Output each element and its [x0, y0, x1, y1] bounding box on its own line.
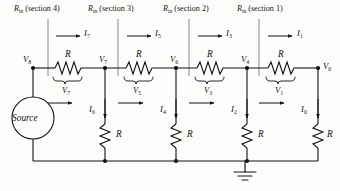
- shunt-resistor-label-1: R: [327, 130, 333, 139]
- branch-voltage-v3: V3: [204, 86, 212, 96]
- circuit-figure: Rin (section 4) Rin (section 3) Rin (sec…: [0, 0, 340, 191]
- series-resistor-label-4: R: [65, 50, 71, 59]
- header-section-1: Rin (section 1): [237, 5, 283, 14]
- current-label-i4: I4: [160, 105, 166, 115]
- node-voltage-v0: V0: [323, 62, 331, 72]
- branch-voltage-v1: V1: [275, 86, 283, 96]
- current-label-i1: I1: [297, 29, 303, 39]
- current-label-i7: I7: [84, 29, 90, 39]
- current-label-i0: I0: [301, 105, 307, 115]
- current-label-i3: I3: [226, 29, 232, 39]
- shunt-resistor-label-3: R: [187, 130, 193, 139]
- node-voltage-v4: V4: [241, 55, 249, 65]
- shunt-resistor-label-4: R: [116, 130, 122, 139]
- series-resistor-label-2: R: [207, 50, 213, 59]
- earth-ground-icon: [234, 161, 256, 180]
- series-resistor-label-1: R: [278, 50, 284, 59]
- node-voltage-v6: V6: [170, 55, 178, 65]
- branch-voltage-v7: V7: [62, 86, 70, 96]
- circuit-schematic: [0, 0, 340, 191]
- series-resistor-label-3: R: [136, 50, 142, 59]
- current-label-i2: I2: [231, 105, 237, 115]
- shunt-resistor-symbols: [100, 124, 323, 148]
- header-section-3: Rin (section 3): [88, 5, 134, 14]
- node-voltage-v7: V7: [99, 55, 107, 65]
- branch-voltage-v5: V5: [133, 86, 141, 96]
- node-voltage-v8: V8: [23, 55, 31, 65]
- current-label-i5: I5: [155, 29, 161, 39]
- voltage-brace-marks: [53, 77, 295, 84]
- header-section-4: Rin (section 4): [14, 5, 60, 14]
- current-label-i6: I6: [89, 105, 95, 115]
- shunt-resistor-label-2: R: [258, 130, 264, 139]
- header-section-2: Rin (section 2): [163, 5, 209, 14]
- source-label: Source: [12, 113, 38, 123]
